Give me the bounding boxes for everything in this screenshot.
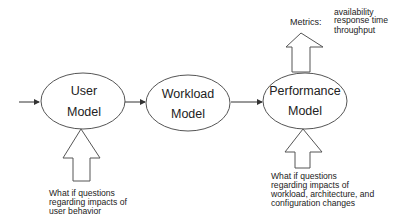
metrics-output-arrow	[286, 33, 323, 72]
user-whatif-arrow	[63, 129, 100, 181]
workload-model-label-2: Model	[143, 107, 233, 121]
user-model-label-2: Model	[39, 105, 129, 119]
user-model-label-1: User	[39, 84, 129, 98]
performance-model-label-2: Model	[260, 104, 350, 118]
metric-response-time: response time	[334, 16, 388, 25]
performance-whatif-arrow	[285, 129, 322, 168]
workload-model-node	[146, 75, 230, 131]
workload-model-label-1: Workload	[143, 87, 233, 101]
perf-question-line-4: configuration changes	[271, 199, 355, 208]
user-model-node	[41, 73, 125, 129]
metrics-label: Metrics:	[290, 18, 322, 27]
performance-model-label-1: Performance	[260, 84, 350, 98]
performance-model-node	[263, 73, 347, 129]
user-question-line-3: user behavior	[49, 207, 101, 216]
metric-throughput: throughput	[334, 26, 375, 35]
